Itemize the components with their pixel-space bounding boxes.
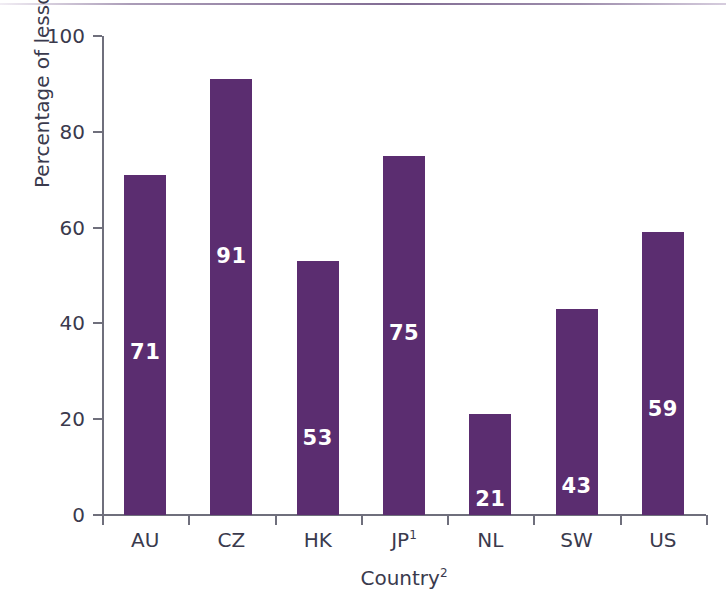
x-axis-title: Country2 <box>102 566 706 590</box>
bar-value-label: 43 <box>556 474 598 498</box>
x-axis-title-text: Country <box>360 566 439 590</box>
y-axis-tick-label: 60 <box>60 216 85 240</box>
x-axis-title-superscript: 2 <box>440 566 448 580</box>
x-axis-tick <box>188 515 190 525</box>
bar-hk: 53 <box>297 261 339 515</box>
x-axis-category-label: SW <box>533 528 619 552</box>
category-name: JP <box>391 528 409 552</box>
plot-area: 02040608010071915375214359 <box>102 36 706 515</box>
bar-sw: 43 <box>556 309 598 515</box>
y-axis-title-container: Percentage of lessons <box>36 40 66 510</box>
y-axis-tick: 20 <box>93 418 102 420</box>
x-axis-category-label: US <box>620 528 706 552</box>
bar-au: 71 <box>124 175 166 515</box>
x-axis-category-label: JP1 <box>361 528 447 552</box>
bar-value-label: 91 <box>210 244 252 268</box>
bar-value-label: 75 <box>383 321 425 345</box>
x-axis-category-label: AU <box>102 528 188 552</box>
x-axis-tick <box>447 515 449 525</box>
category-superscript: 1 <box>409 528 417 542</box>
y-axis-tick: 60 <box>93 227 102 229</box>
category-name: CZ <box>218 528 246 552</box>
top-accent-rule <box>0 3 726 5</box>
x-axis-tick <box>706 515 708 525</box>
bar-jp: 75 <box>383 156 425 515</box>
chart-figure: Percentage of lessons Country2 020406080… <box>0 0 726 609</box>
x-axis-tick <box>533 515 535 525</box>
x-axis-category-label: HK <box>275 528 361 552</box>
x-axis-tick <box>275 515 277 525</box>
bar-value-label: 71 <box>124 340 166 364</box>
category-name: NL <box>477 528 503 552</box>
bar-value-label: 53 <box>297 426 339 450</box>
y-axis-tick: 0 <box>93 514 102 516</box>
x-axis-tick <box>620 515 622 525</box>
bar-value-label: 21 <box>469 487 511 511</box>
y-axis-tick-label: 40 <box>60 311 85 335</box>
y-axis-tick-label: 0 <box>72 503 85 527</box>
bar-cz: 91 <box>210 79 252 515</box>
bar-value-label: 59 <box>642 397 684 421</box>
x-axis-tick <box>102 515 104 525</box>
y-axis-tick-label: 20 <box>60 407 85 431</box>
category-name: HK <box>304 528 332 552</box>
category-name: US <box>649 528 676 552</box>
x-axis-category-label: NL <box>447 528 533 552</box>
x-axis-tick <box>361 515 363 525</box>
y-axis-tick-label: 100 <box>47 24 85 48</box>
y-axis-tick-label: 80 <box>60 120 85 144</box>
y-axis-tick: 100 <box>93 35 102 37</box>
category-name: SW <box>560 528 592 552</box>
bar-nl: 21 <box>469 414 511 515</box>
category-name: AU <box>131 528 159 552</box>
x-axis-category-label: CZ <box>188 528 274 552</box>
bar-us: 59 <box>642 232 684 515</box>
y-axis-tick: 80 <box>93 131 102 133</box>
y-axis-tick: 40 <box>93 322 102 324</box>
